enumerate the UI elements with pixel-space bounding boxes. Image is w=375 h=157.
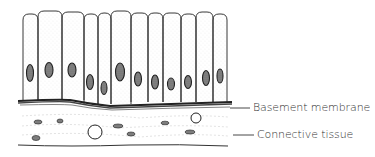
cell-nucleus <box>185 76 192 89</box>
columnar-cells <box>23 11 227 104</box>
columnar-cell <box>38 11 62 100</box>
fibroblast-nucleus <box>185 130 195 134</box>
round-cell <box>88 125 102 139</box>
cell-nucleus <box>116 63 125 81</box>
round-cell <box>191 113 201 123</box>
columnar-cell <box>62 12 84 100</box>
cell-nucleus <box>135 72 142 86</box>
fibroblast-nucleus <box>34 120 42 124</box>
columnar-cell <box>23 14 38 100</box>
fibroblast-nucleus <box>113 124 123 128</box>
connective-tissue-label: Connective tissue <box>257 128 353 141</box>
cell-nucleus <box>45 63 53 78</box>
cell-nucleus <box>217 69 223 83</box>
columnar-cell <box>196 12 213 102</box>
cell-nucleus <box>152 75 159 89</box>
columnar-cell <box>111 11 131 104</box>
cell-nucleus <box>203 71 210 86</box>
columnar-cell <box>213 14 227 102</box>
label-leader-lines <box>230 108 254 135</box>
cell-nucleus <box>168 78 175 90</box>
columnar-cell <box>131 13 148 102</box>
fibroblast-nucleus <box>32 136 40 141</box>
cell-nucleus <box>101 82 107 95</box>
fibroblast-nucleus <box>161 121 169 125</box>
fibroblast-nucleus <box>127 132 135 136</box>
fibroblast-nucleus <box>57 119 63 123</box>
connective-tissue-layer <box>18 113 228 146</box>
cell-nucleus <box>87 75 94 90</box>
cell-nucleus <box>27 65 34 82</box>
cell-nucleus <box>68 63 76 77</box>
basement-membrane-label: Basement membrane <box>253 101 370 114</box>
columnar-cell <box>84 14 98 104</box>
